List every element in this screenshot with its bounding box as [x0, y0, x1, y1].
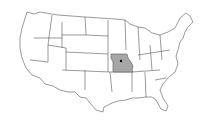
capital-marker-icon — [120, 60, 122, 62]
states — [20, 12, 193, 112]
us-map — [0, 0, 207, 126]
